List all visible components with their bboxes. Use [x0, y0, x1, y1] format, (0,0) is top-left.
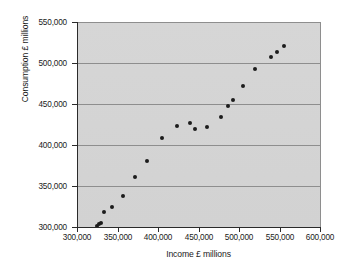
data-point — [110, 205, 114, 209]
plot-background — [77, 22, 320, 227]
data-point — [145, 159, 149, 163]
y-tick-label: 300,000 — [38, 223, 67, 232]
data-point — [160, 136, 164, 140]
y-tick-label: 400,000 — [38, 141, 67, 150]
y-tick-label: 350,000 — [38, 182, 67, 191]
gridline-y-500000 — [77, 63, 320, 64]
y-tick-300000 — [72, 227, 77, 228]
x-tick-label: 500,000 — [225, 233, 254, 242]
y-axis-spine — [77, 22, 78, 228]
x-tick-600000 — [320, 227, 321, 232]
y-tick-450000 — [72, 104, 77, 105]
scatter-chart-figure: 300,000350,000400,000450,000500,000550,0… — [0, 0, 348, 280]
axis-right-spine — [320, 22, 321, 228]
axis-top-spine — [77, 22, 321, 23]
x-tick-450000 — [199, 227, 200, 232]
y-tick-label: 450,000 — [38, 100, 67, 109]
gridline-y-450000 — [77, 104, 320, 105]
x-tick-label: 450,000 — [185, 233, 214, 242]
gridline-y-400000 — [77, 145, 320, 146]
data-point — [226, 104, 230, 108]
x-tick-label: 600,000 — [306, 233, 335, 242]
x-tick-400000 — [158, 227, 159, 232]
x-tick-300000 — [77, 227, 78, 232]
x-axis-title: Income £ millions — [77, 249, 320, 259]
data-point — [102, 210, 106, 214]
plot-area — [77, 22, 320, 227]
y-tick-400000 — [72, 145, 77, 146]
x-tick-label: 300,000 — [63, 233, 92, 242]
y-tick-500000 — [72, 63, 77, 64]
x-tick-label: 550,000 — [266, 233, 295, 242]
x-tick-550000 — [280, 227, 281, 232]
y-tick-label: 500,000 — [38, 59, 67, 68]
data-point — [219, 115, 223, 119]
x-tick-label: 400,000 — [144, 233, 173, 242]
x-tick-350000 — [118, 227, 119, 232]
y-axis-title: Consumption £ millions — [20, 0, 30, 139]
y-tick-label: 550,000 — [38, 18, 67, 27]
gridline-y-350000 — [77, 186, 320, 187]
y-tick-550000 — [72, 22, 77, 23]
y-tick-350000 — [72, 186, 77, 187]
x-tick-500000 — [239, 227, 240, 232]
x-tick-label: 350,000 — [104, 233, 133, 242]
data-point — [188, 121, 192, 125]
